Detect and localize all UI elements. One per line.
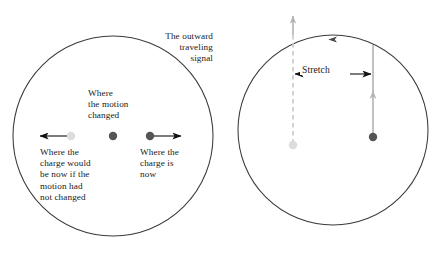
signal-wavefront-circle-right bbox=[238, 35, 428, 225]
ghost-charge-dot-right bbox=[289, 141, 297, 149]
physics-diagram-figure: The outward traveling signal Where the m… bbox=[0, 0, 445, 254]
actual-charge-dot-left bbox=[146, 132, 154, 140]
label-where-charge-would-be: Where the charge would be now if the mot… bbox=[40, 147, 91, 203]
actual-charge-dot-right bbox=[369, 133, 377, 141]
label-stretch: Stretch bbox=[300, 64, 332, 75]
wavefront-direction-arrow bbox=[328, 37, 337, 43]
right-panel-group bbox=[238, 16, 428, 225]
label-where-charge-is-now: Where the charge is now bbox=[140, 147, 179, 181]
origin-dot-left bbox=[109, 132, 117, 140]
left-panel-group bbox=[13, 36, 213, 236]
label-where-motion-changed: Where the motion changed bbox=[88, 88, 129, 122]
ghost-charge-dot-left bbox=[67, 132, 75, 140]
diagram-canvas bbox=[0, 0, 445, 254]
label-outward-traveling-signal: The outward traveling signal bbox=[165, 31, 213, 65]
